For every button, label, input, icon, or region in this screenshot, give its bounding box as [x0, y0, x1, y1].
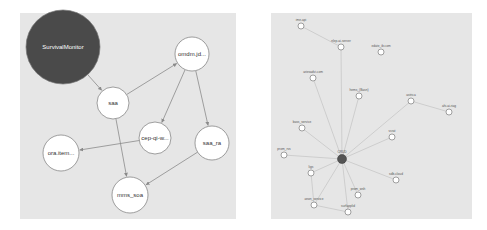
- node-label: cep-qi-w...: [141, 135, 169, 141]
- node-circle[interactable]: [310, 75, 316, 81]
- node-label: edate_ib.com: [371, 44, 390, 48]
- graph-edge: [313, 78, 342, 159]
- graph-node-n6[interactable]: astrica: [406, 93, 416, 104]
- graph-node-n4[interactable]: ariesadvi.com: [303, 70, 323, 81]
- node-label: nlep-ai-server: [331, 39, 351, 43]
- graph-node-n14[interactable]: prom_wsh: [351, 187, 366, 198]
- graph-node-mms_soa[interactable]: mms_soa: [112, 177, 148, 213]
- graph-node-cep-qi[interactable]: cep-qi-w...: [139, 122, 171, 154]
- node-label: prom_rvs: [277, 147, 291, 151]
- node-label: ahi-ai-riag: [442, 104, 456, 108]
- node-circle[interactable]: [393, 177, 399, 183]
- node-circle[interactable]: [446, 109, 452, 115]
- node-label: saa: [108, 100, 118, 106]
- graph-node-n8[interactable]: bass_service: [293, 120, 312, 131]
- graph-edge: [342, 101, 411, 159]
- graph-edge: [301, 26, 341, 47]
- node-label: anon_service: [305, 197, 324, 201]
- graph-node-ora-item[interactable]: ora.item...: [43, 135, 79, 171]
- node-circle[interactable]: [408, 98, 414, 104]
- graph-node-n2[interactable]: nlep-ai-server: [331, 39, 351, 50]
- graph-edge: [88, 75, 102, 91]
- graph-node-saa[interactable]: saa: [97, 87, 129, 119]
- graph-node-n7[interactable]: ahi-ai-riag: [442, 104, 456, 115]
- graph-edge: [116, 119, 127, 177]
- graph-edge: [162, 70, 185, 123]
- left-graph-edges: [80, 63, 208, 184]
- graph-node-n3[interactable]: edate_ib.com: [371, 44, 390, 55]
- node-label: hems_(Basn): [350, 88, 369, 92]
- node-circle[interactable]: [298, 23, 304, 29]
- node-circle[interactable]: [338, 155, 347, 164]
- graph-node-n13[interactable]: ligs: [308, 165, 314, 176]
- graph-node-n9[interactable]: vcrat: [389, 129, 396, 140]
- node-label: ligs: [309, 165, 314, 169]
- node-label: ora.item...: [48, 150, 75, 156]
- node-circle[interactable]: [389, 134, 395, 140]
- graph-node-n16[interactable]: surfapplid: [341, 204, 355, 215]
- graph-node-omdm[interactable]: omdm.jd...: [175, 37, 209, 71]
- graph-node-saa_ra[interactable]: saa_ra: [195, 126, 229, 160]
- graph-edge: [80, 141, 139, 150]
- graph-node-n12[interactable]: sdb-cloud: [389, 172, 403, 183]
- node-label: bass_service: [293, 120, 312, 124]
- node-label: astrica: [406, 93, 416, 97]
- graph-node-n5[interactable]: hems_(Basn): [350, 88, 369, 99]
- node-circle[interactable]: [299, 125, 305, 131]
- graph-node-n1[interactable]: ime-api: [296, 18, 307, 29]
- graph-node-n10[interactable]: prom_rvs: [277, 147, 291, 158]
- node-label: ime-api: [296, 18, 307, 22]
- node-label: surfapplid: [341, 204, 355, 208]
- graph-edge: [342, 137, 392, 159]
- graph-canvas: SurvivalMonitorsaaomdm.jd...cep-qi-w...s…: [0, 0, 487, 230]
- node-circle[interactable]: [281, 152, 287, 158]
- node-label: ariesadvi.com: [303, 70, 323, 74]
- node-label: mms_soa: [117, 192, 144, 198]
- graph-edge: [284, 155, 342, 159]
- graph-node-survivalmonitor[interactable]: SurvivalMonitor: [26, 10, 100, 84]
- graph-node-center[interactable]: CRUD: [337, 150, 347, 164]
- node-label: saa_ra: [203, 140, 222, 146]
- node-circle[interactable]: [356, 93, 362, 99]
- node-circle[interactable]: [338, 44, 344, 50]
- node-label: omdm.jd...: [178, 51, 206, 57]
- graph-edge: [302, 128, 342, 159]
- node-circle[interactable]: [345, 209, 351, 215]
- node-circle[interactable]: [378, 49, 384, 55]
- graph-edge: [311, 159, 342, 173]
- node-circle[interactable]: [311, 202, 317, 208]
- node-circle[interactable]: [355, 192, 361, 198]
- node-label: sdb-cloud: [389, 172, 403, 176]
- node-label: SurvivalMonitor: [42, 44, 83, 50]
- right-graph-nodes: ime-apinlep-ai-serveredate_ib.comariesad…: [277, 18, 456, 215]
- right-graph-edges: [284, 26, 449, 212]
- node-label: vcrat: [389, 129, 396, 133]
- node-circle[interactable]: [308, 170, 314, 176]
- graph-edge: [196, 71, 208, 126]
- graph-edge: [146, 152, 198, 185]
- graph-edge: [127, 63, 177, 94]
- node-label: prom_wsh: [351, 187, 366, 191]
- node-label: CRUD: [337, 150, 347, 154]
- graph-edge: [341, 47, 342, 159]
- left-graph-nodes: SurvivalMonitorsaaomdm.jd...cep-qi-w...s…: [26, 10, 229, 213]
